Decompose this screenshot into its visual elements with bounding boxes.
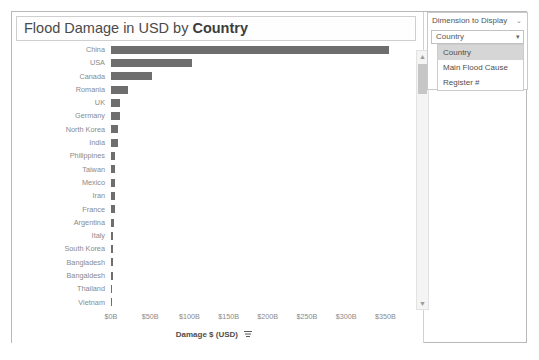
y-axis-category-label: Iran [16, 189, 110, 202]
dimension-to-display-panel: Dimension to Display ⌄ Country ▾ Country… [427, 12, 528, 90]
chevron-down-icon[interactable]: ⌄ [516, 13, 522, 29]
y-axis-category-label: Bangladesh [16, 256, 110, 269]
bar-row [111, 229, 401, 242]
y-axis-label-row: South Korea [16, 242, 110, 255]
bar[interactable] [111, 165, 115, 173]
bar-row [111, 163, 401, 176]
y-axis-category-label: France [16, 203, 110, 216]
y-axis-category-label: India [16, 136, 110, 149]
bar[interactable] [111, 258, 113, 266]
y-axis-category-label: North Korea [16, 123, 110, 136]
bar-row [111, 282, 401, 295]
x-axis-tick-label: $350B [375, 312, 396, 321]
y-axis-category-label: Germany [16, 109, 110, 122]
bar[interactable] [111, 59, 192, 67]
y-axis-category-label: Taiwan [16, 163, 110, 176]
dimension-panel-header: Dimension to Display ⌄ [428, 13, 527, 29]
scrollbar-down-arrow-icon[interactable]: ▼ [417, 298, 428, 309]
dimension-select[interactable]: Country ▾ [431, 30, 524, 44]
bar[interactable] [111, 99, 120, 107]
bar[interactable] [111, 232, 113, 240]
bar[interactable] [111, 86, 128, 94]
bar[interactable] [111, 219, 114, 227]
dimension-option[interactable]: Country [438, 45, 523, 60]
y-axis-label-row: Argentina [16, 216, 110, 229]
bar-row [111, 296, 401, 309]
y-axis-label-row: India [16, 136, 110, 149]
chart-panel: Flood Damage in USD by Country ChinaUSAC… [12, 12, 424, 343]
y-axis-category-labels: ChinaUSACanadaRomaniaUKGermanyNorth Kore… [16, 43, 110, 309]
chart-title-dimension: Country [192, 20, 248, 36]
bar-row [111, 189, 401, 202]
y-axis-label-row: Taiwan [16, 163, 110, 176]
y-axis-label-row: Thailand [16, 282, 110, 295]
sort-descending-icon[interactable] [244, 330, 252, 340]
dimension-option[interactable]: Register # [438, 75, 523, 90]
y-axis-category-label: UK [16, 96, 110, 109]
dimension-panel-header-label: Dimension to Display [432, 16, 507, 25]
bar[interactable] [111, 298, 112, 306]
bar-row [111, 256, 401, 269]
y-axis-label-row: Philippines [16, 149, 110, 162]
x-axis-title-label: Damage $ (USD) [176, 330, 238, 339]
bar[interactable] [111, 205, 115, 213]
bar[interactable] [111, 139, 118, 147]
y-axis-label-row: Italy [16, 229, 110, 242]
x-axis-tick-label: $300B [336, 312, 357, 321]
bar[interactable] [111, 192, 115, 200]
chart-title[interactable]: Flood Damage in USD by Country [16, 16, 416, 41]
y-axis-label-row: Mexico [16, 176, 110, 189]
y-axis-label-row: Vietnam [16, 296, 110, 309]
x-axis-tick-label: $100B [179, 312, 200, 321]
bar-series [111, 43, 401, 309]
bar-row [111, 56, 401, 69]
y-axis-category-label: Italy [16, 229, 110, 242]
y-axis-category-label: China [16, 43, 110, 56]
bar[interactable] [111, 245, 113, 253]
y-axis-category-label: Vietnam [16, 296, 110, 309]
y-axis-label-row: Bangaldesh [16, 269, 110, 282]
dimension-select-value: Country [436, 32, 464, 41]
bar-row [111, 83, 401, 96]
x-axis-tick-label: $50B [142, 312, 159, 321]
y-axis-label-row: China [16, 43, 110, 56]
bar-row [111, 96, 401, 109]
y-axis-category-label: Canada [16, 70, 110, 83]
bar[interactable] [111, 152, 115, 160]
bar[interactable] [111, 72, 152, 80]
bar-row [111, 149, 401, 162]
x-axis-tick-label: $150B [218, 312, 239, 321]
x-axis-tick-label: $0B [105, 312, 118, 321]
bar-row [111, 43, 401, 56]
y-axis-category-label: Thailand [16, 282, 110, 295]
y-axis-label-row: Iran [16, 189, 110, 202]
bar-row [111, 242, 401, 255]
chevron-down-icon[interactable]: ▾ [516, 31, 520, 43]
x-axis-tick-labels: $0B$50B$100B$150B$200B$250B$300B$350B [111, 312, 411, 324]
bar-row [111, 109, 401, 122]
y-axis-label-row: Germany [16, 109, 110, 122]
bar-row [111, 70, 401, 83]
bar[interactable] [111, 46, 389, 54]
dimension-options-list: CountryMain Flood CauseRegister # [437, 44, 524, 91]
bar-row [111, 176, 401, 189]
y-axis-label-row: North Korea [16, 123, 110, 136]
y-axis-label-row: Romania [16, 83, 110, 96]
chart-title-prefix: Flood Damage in USD by [24, 20, 192, 36]
bar-row [111, 269, 401, 282]
bar[interactable] [111, 272, 113, 280]
bar[interactable] [111, 179, 115, 187]
bar-row [111, 216, 401, 229]
x-axis-tick-label: $200B [257, 312, 278, 321]
y-axis-category-label: Romania [16, 83, 110, 96]
bar-row [111, 203, 401, 216]
plot-region: ChinaUSACanadaRomaniaUKGermanyNorth Kore… [16, 43, 412, 309]
scrollbar-thumb[interactable] [418, 64, 427, 94]
bar[interactable] [111, 285, 112, 293]
y-axis-label-row: USA [16, 56, 110, 69]
dimension-option[interactable]: Main Flood Cause [438, 60, 523, 75]
y-axis-category-label: Philippines [16, 149, 110, 162]
y-axis-category-label: Mexico [16, 176, 110, 189]
bar[interactable] [111, 112, 120, 120]
bar[interactable] [111, 125, 118, 133]
